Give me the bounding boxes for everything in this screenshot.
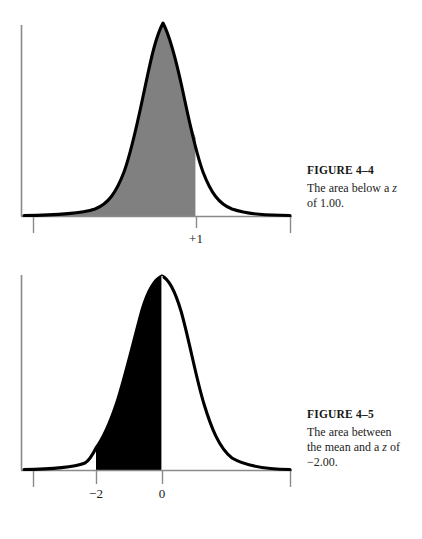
- caption-text-segment: The area below a: [307, 181, 392, 195]
- x-tick-label-zero: 0: [159, 486, 166, 501]
- figure-4-4-caption-body: The area below a zof 1.00.: [307, 181, 419, 212]
- figure-4-5: −2 0 FIGURE 4–5 The area betweenthe mean…: [0, 255, 422, 539]
- caption-text-segment: The area between: [307, 425, 392, 439]
- figure-4-4-caption-title: FIGURE 4–4: [307, 163, 419, 178]
- x-tick-label-minus-2: −2: [89, 486, 103, 501]
- figure-4-5-caption-title: FIGURE 4–5: [307, 407, 419, 422]
- x-tick-label-plus-1: +1: [189, 231, 203, 246]
- shaded-area-below-z1: [33, 23, 196, 216]
- caption-text-segment: −2.00.: [307, 455, 338, 469]
- caption-text-segment: of: [387, 440, 400, 454]
- normal-curve-plot-below-z1: +1: [0, 0, 300, 255]
- figure-4-4: +1 FIGURE 4–4 The area below a zof 1.00.: [0, 0, 422, 255]
- caption-text-segment: the mean and a: [307, 440, 382, 454]
- shaded-area-mean-to-z-neg2: [96, 276, 162, 470]
- figure-4-5-caption-body: The area betweenthe mean and a z of−2.00…: [307, 425, 419, 471]
- figure-4-4-caption: FIGURE 4–4 The area below a zof 1.00.: [307, 163, 419, 211]
- figure-4-5-caption: FIGURE 4–5 The area betweenthe mean and …: [307, 407, 419, 471]
- caption-text-segment: of 1.00.: [307, 196, 344, 210]
- caption-italic-z: z: [392, 181, 397, 195]
- normal-curve-plot-mean-to-z-neg2: −2 0: [0, 255, 300, 510]
